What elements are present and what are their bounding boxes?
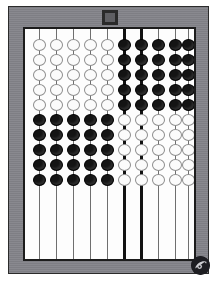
bead-black-rod-10-pos2[interactable] — [182, 54, 194, 66]
bead-white-rod-10-pos6[interactable] — [182, 114, 194, 126]
bead-black-rod-9-pos3[interactable] — [169, 69, 182, 81]
bead-black-rod-2-pos10[interactable] — [50, 174, 63, 186]
bead-white-rod-7-pos9[interactable] — [135, 159, 148, 171]
bead-white-rod-5-pos1[interactable] — [101, 39, 114, 51]
bead-white-rod-6-pos9[interactable] — [118, 159, 131, 171]
bead-white-rod-1-pos1[interactable] — [33, 39, 46, 51]
bead-white-rod-5-pos3[interactable] — [101, 69, 114, 81]
bead-black-rod-2-pos6[interactable] — [50, 114, 63, 126]
bead-white-rod-7-pos6[interactable] — [135, 114, 148, 126]
bead-black-rod-6-pos4[interactable] — [118, 84, 131, 96]
bead-white-rod-9-pos7[interactable] — [169, 129, 182, 141]
bead-white-rod-10-pos9[interactable] — [182, 159, 194, 171]
bead-black-rod-9-pos4[interactable] — [169, 84, 182, 96]
bead-white-rod-10-pos7[interactable] — [182, 129, 194, 141]
bead-white-rod-3-pos2[interactable] — [67, 54, 80, 66]
bead-white-rod-4-pos5[interactable] — [84, 99, 97, 111]
bead-black-rod-8-pos1[interactable] — [152, 39, 165, 51]
bead-black-rod-8-pos4[interactable] — [152, 84, 165, 96]
bead-white-rod-2-pos4[interactable] — [50, 84, 63, 96]
bead-black-rod-10-pos5[interactable] — [182, 99, 194, 111]
bead-white-rod-6-pos6[interactable] — [118, 114, 131, 126]
bead-white-rod-9-pos8[interactable] — [169, 144, 182, 156]
bead-black-rod-4-pos7[interactable] — [84, 129, 97, 141]
bead-black-rod-5-pos6[interactable] — [101, 114, 114, 126]
bead-white-rod-4-pos1[interactable] — [84, 39, 97, 51]
bead-white-rod-2-pos3[interactable] — [50, 69, 63, 81]
bead-black-rod-3-pos9[interactable] — [67, 159, 80, 171]
bead-black-rod-6-pos3[interactable] — [118, 69, 131, 81]
bead-white-rod-4-pos3[interactable] — [84, 69, 97, 81]
bead-black-rod-10-pos4[interactable] — [182, 84, 194, 96]
bead-white-rod-2-pos2[interactable] — [50, 54, 63, 66]
bead-white-rod-7-pos10[interactable] — [135, 174, 148, 186]
bead-white-rod-9-pos10[interactable] — [169, 174, 182, 186]
bead-white-rod-8-pos10[interactable] — [152, 174, 165, 186]
bead-black-rod-1-pos8[interactable] — [33, 144, 46, 156]
bead-black-rod-9-pos2[interactable] — [169, 54, 182, 66]
bead-white-rod-3-pos4[interactable] — [67, 84, 80, 96]
bead-white-rod-5-pos4[interactable] — [101, 84, 114, 96]
bead-black-rod-4-pos6[interactable] — [84, 114, 97, 126]
bead-white-rod-8-pos8[interactable] — [152, 144, 165, 156]
bead-black-rod-2-pos8[interactable] — [50, 144, 63, 156]
bead-white-rod-2-pos5[interactable] — [50, 99, 63, 111]
bead-white-rod-5-pos2[interactable] — [101, 54, 114, 66]
bead-black-rod-3-pos6[interactable] — [67, 114, 80, 126]
bead-black-rod-1-pos6[interactable] — [33, 114, 46, 126]
bead-white-rod-1-pos5[interactable] — [33, 99, 46, 111]
bead-black-rod-1-pos7[interactable] — [33, 129, 46, 141]
bead-black-rod-1-pos10[interactable] — [33, 174, 46, 186]
bead-white-rod-9-pos9[interactable] — [169, 159, 182, 171]
bead-white-rod-8-pos6[interactable] — [152, 114, 165, 126]
bead-black-rod-9-pos1[interactable] — [169, 39, 182, 51]
bead-black-rod-8-pos3[interactable] — [152, 69, 165, 81]
bead-white-rod-1-pos3[interactable] — [33, 69, 46, 81]
bead-white-rod-2-pos1[interactable] — [50, 39, 63, 51]
bead-white-rod-6-pos10[interactable] — [118, 174, 131, 186]
bead-black-rod-2-pos7[interactable] — [50, 129, 63, 141]
bead-white-rod-7-pos7[interactable] — [135, 129, 148, 141]
bead-white-rod-3-pos1[interactable] — [67, 39, 80, 51]
bead-black-rod-5-pos10[interactable] — [101, 174, 114, 186]
bead-black-rod-8-pos2[interactable] — [152, 54, 165, 66]
bead-black-rod-10-pos3[interactable] — [182, 69, 194, 81]
bead-white-rod-9-pos6[interactable] — [169, 114, 182, 126]
bead-white-rod-10-pos8[interactable] — [182, 144, 194, 156]
bead-white-rod-10-pos10[interactable] — [182, 174, 194, 186]
bead-black-rod-7-pos2[interactable] — [135, 54, 148, 66]
bead-black-rod-4-pos10[interactable] — [84, 174, 97, 186]
bead-white-rod-8-pos9[interactable] — [152, 159, 165, 171]
bead-white-rod-7-pos8[interactable] — [135, 144, 148, 156]
bead-white-rod-5-pos5[interactable] — [101, 99, 114, 111]
bead-white-rod-3-pos3[interactable] — [67, 69, 80, 81]
bead-black-rod-7-pos5[interactable] — [135, 99, 148, 111]
bead-white-rod-1-pos2[interactable] — [33, 54, 46, 66]
bead-black-rod-7-pos3[interactable] — [135, 69, 148, 81]
bead-black-rod-2-pos9[interactable] — [50, 159, 63, 171]
bead-black-rod-6-pos2[interactable] — [118, 54, 131, 66]
bead-black-rod-4-pos9[interactable] — [84, 159, 97, 171]
bead-white-rod-4-pos4[interactable] — [84, 84, 97, 96]
bead-black-rod-6-pos1[interactable] — [118, 39, 131, 51]
bead-white-rod-6-pos7[interactable] — [118, 129, 131, 141]
bead-white-rod-3-pos5[interactable] — [67, 99, 80, 111]
bead-black-rod-9-pos5[interactable] — [169, 99, 182, 111]
bead-black-rod-4-pos8[interactable] — [84, 144, 97, 156]
bead-black-rod-3-pos7[interactable] — [67, 129, 80, 141]
bead-black-rod-6-pos5[interactable] — [118, 99, 131, 111]
bead-black-rod-5-pos8[interactable] — [101, 144, 114, 156]
bead-white-rod-6-pos8[interactable] — [118, 144, 131, 156]
bead-white-rod-1-pos4[interactable] — [33, 84, 46, 96]
bead-black-rod-5-pos9[interactable] — [101, 159, 114, 171]
bead-white-rod-8-pos7[interactable] — [152, 129, 165, 141]
bead-black-rod-8-pos5[interactable] — [152, 99, 165, 111]
bead-black-rod-7-pos4[interactable] — [135, 84, 148, 96]
bead-black-rod-7-pos1[interactable] — [135, 39, 148, 51]
bead-black-rod-10-pos1[interactable] — [182, 39, 194, 51]
bead-black-rod-1-pos9[interactable] — [33, 159, 46, 171]
bead-black-rod-3-pos10[interactable] — [67, 174, 80, 186]
bead-black-rod-5-pos7[interactable] — [101, 129, 114, 141]
bead-black-rod-3-pos8[interactable] — [67, 144, 80, 156]
bead-white-rod-4-pos2[interactable] — [84, 54, 97, 66]
